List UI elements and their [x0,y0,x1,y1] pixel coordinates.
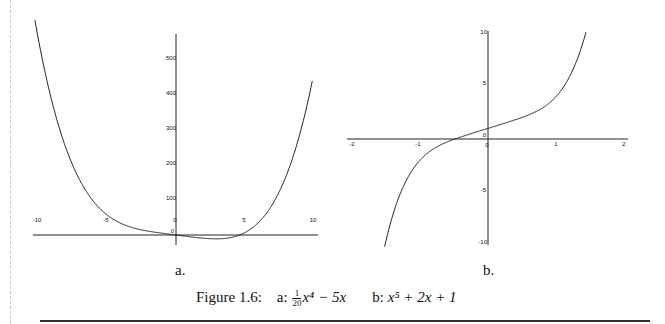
plot-b-y-ticks: 10 5 0 -5 -10 [478,29,487,245]
caption-a-expression: x⁴ − 5x [302,289,346,305]
bottom-rule [40,320,650,322]
caption-b-expression: x⁵ + 2x + 1 [388,289,457,305]
tick-label: -5 [103,217,109,223]
plot-a: -10 -5 0 5 10 0 100 200 300 400 500 [33,20,318,245]
tick-label: 5 [242,217,246,223]
tick-label: 10 [310,217,317,223]
tick-label: 300 [166,125,177,131]
caption-b-prefix: b: [372,289,384,305]
tick-label: 400 [166,90,177,96]
tick-label: 1 [554,141,558,147]
subfigure-label-b: b. [483,262,494,279]
tick-label: 100 [166,195,177,201]
tick-label: -10 [478,239,487,245]
tick-label: -1 [415,141,421,147]
plot-b: -2 -1 0 1 2 10 5 0 -5 -10 [347,29,628,247]
tick-label: 0 [171,228,175,234]
caption-a-fraction: 120 [292,289,301,308]
caption-label: Figure 1.6: [196,289,262,305]
tick-label: 500 [166,55,177,61]
tick-label: -5 [481,187,487,193]
subfigure-label-a: a. [175,262,185,279]
tick-label: -10 [33,217,42,223]
plot-b-x-ticks: -2 -1 0 1 2 [349,141,626,148]
tick-label: -2 [349,141,355,147]
figure-caption: Figure 1.6: a: 120x⁴ − 5x b: x⁵ + 2x + 1 [196,289,457,308]
tick-label: 2 [622,141,626,147]
tick-label: 0 [173,217,177,223]
caption-a-prefix: a: [277,289,288,305]
plots-canvas: -10 -5 0 5 10 0 100 200 300 400 500 -2 -… [0,0,665,324]
tick-label: 200 [166,160,177,166]
tick-label: 10 [480,29,487,35]
tick-label: 5 [483,80,487,86]
plot-a-x-ticks: -10 -5 0 5 10 [33,217,317,223]
tick-label: 0 [485,142,489,148]
plot-a-y-ticks: 0 100 200 300 400 500 [166,55,177,234]
tick-label: 0 [483,132,487,138]
